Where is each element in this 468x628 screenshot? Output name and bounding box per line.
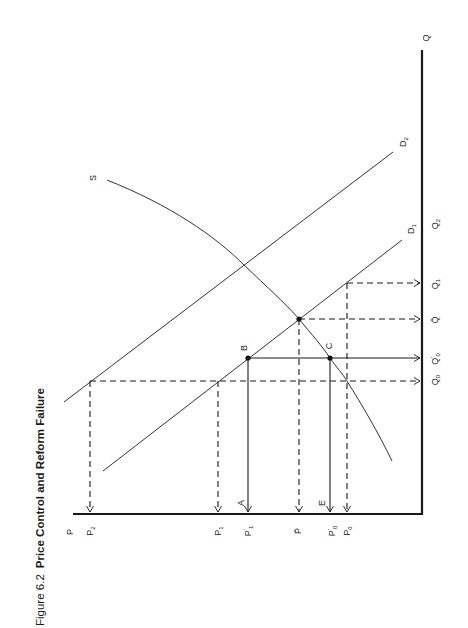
d1-label: D1	[406, 223, 417, 234]
label-e: E	[317, 500, 327, 506]
figure: Figure 6.2Price Control and Reform Failu…	[0, 0, 468, 628]
q-tick-q2: Q2	[430, 218, 441, 229]
d2-label: D2	[398, 136, 409, 147]
p-tick-p2: P2	[85, 526, 96, 536]
p-tick-p1: P1	[213, 526, 224, 536]
svg-text:P2: P2	[85, 526, 96, 536]
supply-curve	[107, 180, 392, 461]
svg-text:P'1: P'1	[243, 525, 254, 536]
q-tick-q0: Q0	[430, 374, 441, 385]
svg-text:D1: D1	[406, 223, 417, 234]
p-tick-p1-prime: P'1	[243, 525, 254, 536]
svg-text:Q'0: Q'0	[430, 353, 441, 365]
svg-text:A: A	[236, 500, 246, 506]
q-axis-label: Q	[421, 34, 431, 41]
svg-text:Q: Q	[421, 34, 431, 41]
svg-text:P1: P1	[213, 526, 224, 536]
demand-curve-d2	[64, 152, 393, 402]
q-tick-q0-prime: Q'0	[430, 353, 441, 365]
svg-text:B: B	[239, 345, 249, 351]
label-b: B	[239, 345, 249, 351]
chart-canvas: Figure 6.2Price Control and Reform Failu…	[0, 0, 468, 628]
supply-label: S	[88, 175, 98, 181]
figure-title: Figure 6.2Price Control and Reform Failu…	[34, 388, 46, 626]
p-tick-pbar: P̄	[293, 528, 303, 534]
p-tick-p0: P0	[342, 526, 353, 536]
equilibrium-point	[296, 316, 301, 321]
svg-text:Q0: Q0	[430, 374, 441, 385]
svg-text:P'0: P'0	[327, 525, 338, 536]
svg-text:C: C	[324, 342, 334, 349]
svg-text:Q2: Q2	[430, 218, 441, 229]
svg-text:Figure 6.2Price Control and Re: Figure 6.2Price Control and Reform Failu…	[34, 388, 46, 626]
svg-text:P: P	[65, 529, 75, 535]
point-b	[245, 355, 250, 360]
svg-text:P0: P0	[342, 526, 353, 536]
demand-curve-d1	[103, 240, 402, 471]
svg-text:P̄: P̄	[293, 528, 303, 534]
label-c: C	[324, 342, 334, 349]
svg-text:Q1: Q1	[430, 278, 441, 289]
figure-title-text: Price Control and Reform Failure	[34, 388, 46, 568]
p-tick-p0-prime: P'0	[327, 525, 338, 536]
figure-number: Figure 6.2	[34, 574, 46, 626]
svg-text:D2: D2	[398, 136, 409, 147]
q-tick-q1: Q1	[430, 278, 441, 289]
svg-text:E: E	[317, 500, 327, 506]
point-c	[327, 355, 332, 360]
label-a: A	[236, 500, 246, 506]
svg-text:S: S	[88, 175, 98, 181]
p-axis-label: P	[65, 529, 75, 535]
q-tick-qbar: Q̄	[430, 316, 440, 323]
svg-text:Q̄: Q̄	[430, 316, 440, 323]
